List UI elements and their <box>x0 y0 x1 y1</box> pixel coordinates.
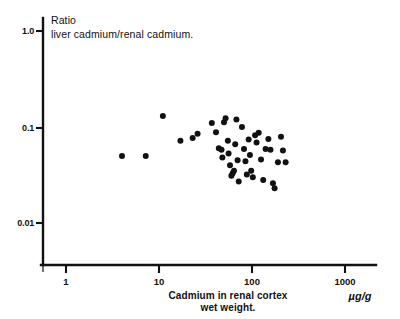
scatter-point <box>143 153 149 159</box>
scatter-point <box>278 134 284 140</box>
scatter-point <box>236 179 242 185</box>
x-axis-title-line2: wet weight. <box>200 302 256 313</box>
y-tick-label-0p1: 0.1 <box>22 123 34 133</box>
plot-svg: 1.0 0.1 0.01 1 10 100 1000 Ratio liver c… <box>0 0 400 319</box>
scatter-point <box>160 113 166 119</box>
y-tick-label-1: 1.0 <box>22 26 34 36</box>
x-axis-units: µg/g <box>348 290 372 302</box>
x-tick-label-1000: 1000 <box>334 276 355 287</box>
scatter-point <box>265 136 271 142</box>
scatter-point <box>250 174 256 180</box>
scatter-point <box>225 138 231 144</box>
scatter-point <box>241 146 247 152</box>
scatter-point <box>213 129 219 135</box>
scatter-point <box>232 141 238 147</box>
scatter-point <box>233 116 239 122</box>
scatter-point <box>226 150 232 156</box>
scatter-point <box>260 177 266 183</box>
scatter-point <box>239 124 245 130</box>
scatter-point <box>267 147 273 153</box>
scatter-point <box>247 152 253 158</box>
y-tick-label-0p01: 0.01 <box>17 218 34 228</box>
scatter-point <box>272 185 278 191</box>
x-tick-label-10: 10 <box>154 276 165 287</box>
y-axis-title-line2: liver cadmium/renal cadmium. <box>51 28 193 40</box>
scatter-point <box>248 168 254 174</box>
scatter-point <box>209 120 215 126</box>
y-axis-title-line1: Ratio <box>51 14 76 26</box>
scatter-point <box>258 156 264 162</box>
scatter-point <box>283 159 289 165</box>
x-tick-label-1: 1 <box>63 276 69 287</box>
scatter-point <box>195 131 201 137</box>
scatter-point <box>254 139 260 145</box>
x-tick-label-100: 100 <box>244 276 260 287</box>
scatter-point <box>280 147 286 153</box>
scatter-point <box>275 159 281 165</box>
scatter-point <box>177 138 183 144</box>
scatter-point <box>190 135 196 141</box>
scatter-point <box>227 162 233 168</box>
scatter-point <box>256 130 262 136</box>
scatter-point <box>219 147 225 153</box>
scatter-point <box>231 168 237 174</box>
scatter-point <box>235 157 241 163</box>
scatter-chart-figure: 1.0 0.1 0.01 1 10 100 1000 Ratio liver c… <box>0 0 400 319</box>
scatter-point <box>270 180 276 186</box>
x-axis-title-line1: Cadmium in renal cortex <box>169 290 288 301</box>
scatter-point <box>246 137 252 143</box>
scatter-point <box>223 115 229 121</box>
scatter-points-layer <box>119 113 289 191</box>
scatter-point <box>242 158 248 164</box>
scatter-point <box>119 153 125 159</box>
scatter-point <box>219 155 225 161</box>
